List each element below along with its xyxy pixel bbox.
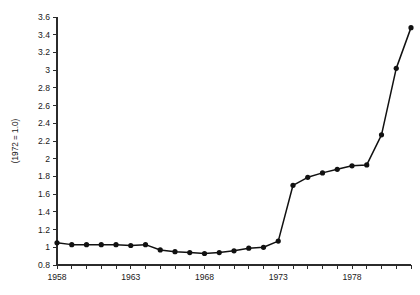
data-point bbox=[261, 245, 266, 250]
y-axis-title-label: (1972 = 1.0) bbox=[11, 119, 20, 164]
data-point bbox=[99, 242, 104, 247]
data-point bbox=[276, 238, 281, 243]
y-axis-tick-label: 1 bbox=[45, 242, 50, 252]
y-axis-tick-label: 3.4 bbox=[38, 30, 50, 40]
x-axis-tick-label: 1973 bbox=[269, 272, 288, 282]
y-axis-tick-label: 1.8 bbox=[38, 171, 50, 181]
y-axis-tick-label: 2 bbox=[45, 154, 50, 164]
y-axis-tick-label: 3.2 bbox=[38, 47, 50, 57]
data-point bbox=[408, 25, 413, 30]
data-point bbox=[54, 240, 59, 245]
data-point bbox=[217, 250, 222, 255]
data-point bbox=[246, 246, 251, 251]
y-axis-tick-label: 1.6 bbox=[38, 189, 50, 199]
x-axis: 19581963196819731978 bbox=[47, 265, 411, 282]
data-point bbox=[320, 170, 325, 175]
data-point bbox=[113, 242, 118, 247]
y-axis-tick-label: 3 bbox=[45, 65, 50, 75]
data-point bbox=[335, 167, 340, 172]
data-point bbox=[394, 66, 399, 71]
data-point bbox=[349, 163, 354, 168]
data-point bbox=[158, 247, 163, 252]
series-line bbox=[57, 28, 411, 254]
chart-container: 0.811.21.41.61.822.22.42.62.833.23.43.6 … bbox=[0, 0, 420, 295]
data-point bbox=[379, 132, 384, 137]
x-axis-tick-label: 1968 bbox=[195, 272, 214, 282]
y-axis-tick-label: 1.4 bbox=[38, 207, 50, 217]
data-point bbox=[128, 243, 133, 248]
data-point bbox=[305, 175, 310, 180]
y-axis-tick-label: 2.4 bbox=[38, 118, 50, 128]
y-axis-tick-label: 3.6 bbox=[38, 12, 50, 22]
x-axis-tick-label: 1978 bbox=[342, 272, 361, 282]
data-point bbox=[84, 242, 89, 247]
y-axis-tick-label: 1.2 bbox=[38, 225, 50, 235]
data-point bbox=[364, 162, 369, 167]
data-series bbox=[54, 25, 413, 256]
data-point bbox=[290, 183, 295, 188]
data-point bbox=[172, 249, 177, 254]
y-axis: 0.811.21.41.61.822.22.42.62.833.23.43.6 bbox=[38, 12, 57, 270]
line-chart: 0.811.21.41.61.822.22.42.62.833.23.43.6 … bbox=[0, 0, 420, 295]
data-point bbox=[143, 242, 148, 247]
data-point bbox=[231, 248, 236, 253]
y-axis-tick-label: 2.2 bbox=[38, 136, 50, 146]
y-axis-tick-label: 0.8 bbox=[38, 260, 50, 270]
y-axis-tick-label: 2.6 bbox=[38, 101, 50, 111]
y-axis-tick-label: 2.8 bbox=[38, 83, 50, 93]
y-axis-title: (1972 = 1.0) bbox=[11, 119, 20, 164]
x-axis-tick-label: 1958 bbox=[47, 272, 66, 282]
data-point bbox=[69, 242, 74, 247]
data-point bbox=[187, 250, 192, 255]
x-axis-tick-label: 1963 bbox=[121, 272, 140, 282]
data-point bbox=[202, 251, 207, 256]
